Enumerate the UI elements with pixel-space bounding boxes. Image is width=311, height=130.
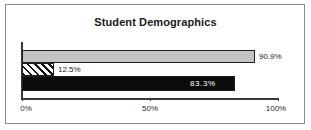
- hatch-pattern-fill: [23, 64, 53, 75]
- x-axis-tick-100: [278, 98, 279, 101]
- plot-area: 0% 50% 100% 90.9% 12.5% 83.3%: [0, 0, 311, 130]
- x-axis-tick-label-0: 0%: [20, 104, 32, 113]
- bar-label-series-2: 12.5%: [58, 66, 81, 74]
- bar-label-series-1: 90.9%: [259, 53, 282, 61]
- bar-series-1: [22, 50, 255, 63]
- bar-series-2: [22, 63, 54, 76]
- x-axis-tick-label-100: 100%: [266, 104, 286, 113]
- chart-container: Student Demographics 0% 50% 100% 90.9% 1…: [0, 0, 311, 130]
- x-axis-tick-0: [22, 98, 23, 101]
- x-axis-tick-50: [150, 98, 151, 101]
- bar-label-series-3: 83.3%: [190, 80, 216, 88]
- x-axis-tick-label-50: 50%: [142, 104, 158, 113]
